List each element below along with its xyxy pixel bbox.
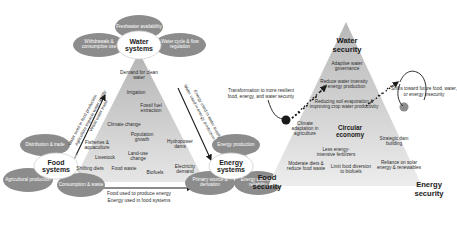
edge-label-food-used-produce-energy: Food used to produce energy [84,191,194,196]
figure-canvas: Freshwater availability Withdrawals & co… [0,0,457,227]
figure-vector-layer [0,0,457,227]
action-reducing-soil-evaporation: Reducing soil evaporation & improving cr… [306,100,382,110]
corner-label-energy-security: Energy security [404,180,454,199]
item-hydropower-dams: Hydropower dams [163,139,197,149]
hub-water-systems [117,31,161,59]
action-reliance-solar-renewables: Reliance on solar energy & renewables [376,161,422,171]
action-climate-adaptation-agriculture: Climate adaptation in agriculture [286,122,324,137]
action-circular-economy: Circular economy [328,125,372,138]
item-electricity-demand: Electricity demand [169,164,201,174]
corner-label-food-security: Food security [244,173,290,192]
edge-label-energy-used-food-systems: Energy used in food systems [84,198,194,203]
action-reduce-water-intensity-energy: Reduce water intensity of energy product… [318,80,370,90]
item-biofuels: Biofuels [141,170,169,175]
item-shifting-diets: Shifting diets [75,166,105,171]
item-food-waste: Food waste [109,166,139,171]
action-moderate-diets-reduce-waste: Moderate diets & reduce food waste [284,162,328,172]
action-strategic-dam-building: Strategic dam building [374,137,414,147]
annotation-insecurity: Shifts toward future food, water, or ene… [391,86,457,98]
item-climate-change: Climate change [102,122,146,127]
item-demand-for-clean-water: Demand for clean water [118,70,160,80]
action-limit-food-diversion-biofuels: Limit food diversion to biofuels [330,165,372,175]
item-irrigation: Irrigation [116,90,156,95]
corner-label-water-security: Water security [322,36,372,55]
item-land-use-change: Land-use change [122,151,154,161]
action-less-energy-intensive-fertilizers: Less energy-intensive fertilizers [314,148,358,158]
item-livestock: Livestock [88,155,122,160]
node-water-cycle [154,33,206,57]
item-population-growth: Population growth [125,132,159,142]
action-adaptive-water-governance: Adaptive water governance [323,62,371,72]
annotation-transformation: Transformation to more resilient food, e… [224,88,298,100]
item-fossil-fuel-extraction: Fossil fuel extraction [132,103,170,113]
